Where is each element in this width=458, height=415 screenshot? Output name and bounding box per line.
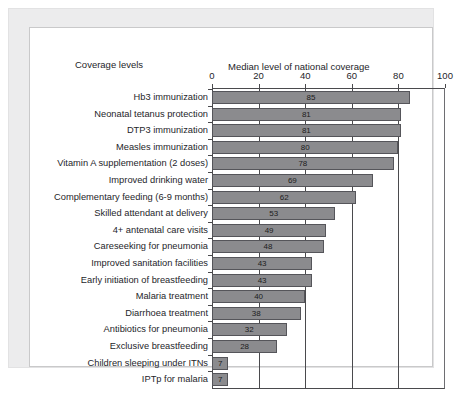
x-axis-tick: [212, 84, 213, 88]
x-axis-tick: [445, 84, 446, 88]
bar-row: 81: [212, 124, 445, 137]
plot-area: 020406080100 858181807869625349484343403…: [212, 88, 445, 389]
category-tick: [208, 106, 212, 107]
category-label: Antibiotics for pneumonia: [104, 323, 208, 336]
category-tick: [208, 139, 212, 140]
chart-panel: Coverage levels Median level of national…: [29, 27, 433, 367]
x-axis-tick-label: 40: [300, 70, 311, 81]
x-axis-tick-label: 60: [347, 70, 358, 81]
category-tick: [208, 89, 212, 90]
category-label: IPTp for malaria: [142, 373, 208, 386]
figure-frame: Coverage levels Median level of national…: [8, 8, 434, 368]
category-label: Exclusive breastfeeding: [110, 340, 208, 353]
category-label: Vitamin A supplementation (2 doses): [57, 157, 208, 170]
category-label: Improved drinking water: [109, 174, 208, 187]
bar-value-label: 69: [212, 175, 373, 186]
category-label: Improved sanitation facilities: [91, 257, 208, 270]
category-tick: [208, 222, 212, 223]
category-tick: [208, 288, 212, 289]
bar-row: 49: [212, 224, 445, 237]
bar-row: 40: [212, 290, 445, 303]
bar-row: 53: [212, 207, 445, 220]
bar-value-label: 80: [212, 142, 398, 153]
bar-value-label: 81: [212, 125, 401, 136]
bar-row: 38: [212, 307, 445, 320]
category-label: Skilled attendant at delivery: [94, 207, 208, 220]
bar-value-label: 78: [212, 158, 394, 169]
category-label: 4+ antenatal care visits: [113, 224, 208, 237]
x-axis-tick-label: 20: [253, 70, 264, 81]
bar-row: 32: [212, 323, 445, 336]
bar-value-label: 7: [212, 358, 228, 369]
bar-value-label: 38: [212, 308, 301, 319]
bar-value-label: 28: [212, 341, 277, 352]
bar-row: 48: [212, 240, 445, 253]
bar-value-label: 49: [212, 225, 326, 236]
category-axis-labels: Hb3 immunizationNeonatal tetanus protect…: [54, 88, 208, 389]
category-tick: [208, 122, 212, 123]
bar-value-label: 7: [212, 374, 228, 385]
x-axis-tick: [305, 84, 306, 88]
category-tick: [208, 321, 212, 322]
bar-value-label: 53: [212, 208, 335, 219]
category-tick: [208, 205, 212, 206]
x-axis-tick: [352, 84, 353, 88]
scanned-page: Coverage levels Median level of national…: [0, 0, 458, 415]
bar-value-label: 40: [212, 291, 305, 302]
category-label: Early initiation of breastfeeding: [81, 274, 208, 287]
category-tick: [208, 305, 212, 306]
bar-value-label: 62: [212, 192, 356, 203]
bar-row: 7: [212, 357, 445, 370]
category-tick: [208, 338, 212, 339]
category-label: Neonatal tetanus protection: [94, 108, 208, 121]
category-label: Careseeking for pneumonia: [94, 240, 208, 253]
bar-row: 69: [212, 174, 445, 187]
bar-row: 85: [212, 91, 445, 104]
bar-value-label: 43: [212, 275, 312, 286]
category-tick: [208, 272, 212, 273]
category-label: Complementary feeding (6-9 months): [54, 191, 208, 204]
bar-row: 43: [212, 257, 445, 270]
bar-value-label: 48: [212, 241, 324, 252]
category-label: Children sleeping under ITNs: [88, 357, 208, 370]
x-axis-tick-label: 0: [209, 70, 214, 81]
category-label: DTP3 immunization: [127, 124, 208, 137]
category-tick: [208, 355, 212, 356]
bar-value-label: 81: [212, 109, 401, 120]
bar-row: 62: [212, 191, 445, 204]
bar-value-label: 43: [212, 258, 312, 269]
bar-row: 81: [212, 108, 445, 121]
category-label: Diarrhoea treatment: [125, 307, 208, 320]
coverage-levels-header: Coverage levels: [75, 59, 143, 70]
category-tick: [208, 255, 212, 256]
bar-row: 80: [212, 141, 445, 154]
bar-row: 43: [212, 274, 445, 287]
x-axis-tick-label: 100: [437, 70, 453, 81]
x-axis-tick-label: 80: [393, 70, 404, 81]
category-label: Malaria treatment: [136, 290, 208, 303]
category-label: Measles immunization: [116, 141, 208, 154]
bar-row: 78: [212, 157, 445, 170]
x-axis-tick: [259, 84, 260, 88]
bar-row: 7: [212, 373, 445, 386]
bar-value-label: 85: [212, 92, 410, 103]
category-tick: [208, 155, 212, 156]
bar-row: 28: [212, 340, 445, 353]
x-axis-tick: [398, 84, 399, 88]
category-tick: [208, 371, 212, 372]
category-tick: [208, 172, 212, 173]
category-tick: [208, 238, 212, 239]
category-label: Hb3 immunization: [134, 91, 208, 104]
bar-value-label: 32: [212, 324, 287, 335]
category-tick: [208, 189, 212, 190]
